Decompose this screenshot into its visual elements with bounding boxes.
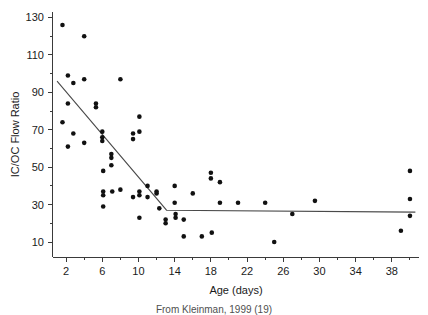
data-point — [313, 199, 318, 204]
y-axis-ticks — [48, 17, 53, 242]
data-point — [101, 204, 106, 209]
data-point — [209, 170, 214, 175]
data-point — [209, 230, 214, 235]
y-tick-label: 110 — [26, 49, 44, 61]
data-point — [109, 163, 114, 168]
data-point — [82, 34, 87, 39]
data-point — [118, 187, 123, 192]
y-tick-label: 130 — [26, 11, 44, 23]
data-point — [71, 81, 76, 86]
x-tick-label: 22 — [241, 265, 253, 277]
data-point — [100, 139, 105, 144]
data-point — [172, 200, 177, 205]
data-point — [60, 23, 65, 28]
y-tick-label: 30 — [32, 199, 44, 211]
y-tick-label: 90 — [32, 86, 44, 98]
x-tick-label: 10 — [132, 265, 144, 277]
x-axis-ticks — [66, 257, 410, 262]
x-tick-label: 14 — [169, 265, 181, 277]
data-point — [66, 144, 71, 149]
source-caption: From Kleinman, 1999 (19) — [0, 304, 428, 315]
data-point — [163, 221, 168, 226]
data-point — [408, 169, 413, 174]
x-tick-label: 18 — [205, 265, 217, 277]
y-axis-title: IC/OC Flow Ratio — [9, 92, 21, 178]
data-point — [181, 234, 186, 239]
x-tick-label: 38 — [386, 265, 398, 277]
data-point — [408, 197, 413, 202]
x-tick-label: 26 — [277, 265, 289, 277]
data-point — [137, 215, 142, 220]
data-point — [173, 215, 178, 220]
data-point — [110, 189, 115, 194]
data-point — [145, 184, 150, 189]
data-point — [66, 73, 71, 78]
data-point — [94, 105, 99, 110]
data-point — [263, 200, 268, 205]
axes-group — [53, 12, 419, 257]
y-tick-label: 50 — [32, 161, 44, 173]
data-point — [408, 214, 413, 219]
data-point — [145, 195, 150, 200]
data-point — [137, 114, 142, 119]
x-tick-label: 34 — [350, 265, 362, 277]
data-point — [82, 77, 87, 82]
data-point — [137, 129, 142, 134]
x-tick-label: 6 — [99, 265, 105, 277]
data-point — [109, 156, 114, 161]
data-point — [71, 131, 76, 136]
data-point — [101, 193, 106, 198]
data-point — [190, 191, 195, 196]
data-point — [131, 131, 136, 136]
data-point — [118, 77, 123, 82]
data-point — [290, 212, 295, 217]
data-point — [200, 234, 205, 239]
data-point — [101, 169, 106, 174]
data-point — [272, 240, 277, 245]
data-point — [157, 206, 162, 211]
y-tick-label: 70 — [32, 124, 44, 136]
data-point — [181, 217, 186, 222]
data-point — [131, 195, 136, 200]
data-point — [131, 137, 136, 142]
data-point — [82, 141, 87, 146]
data-point — [218, 180, 223, 185]
x-axis-tick-labels: 261014182226303438 — [63, 265, 398, 277]
data-point — [218, 200, 223, 205]
data-point — [100, 129, 105, 134]
x-tick-label: 2 — [63, 265, 69, 277]
data-point — [60, 120, 65, 125]
y-axis-tick-labels: 1030507090110130 — [26, 11, 44, 248]
y-tick-label: 10 — [32, 236, 44, 248]
data-point — [172, 184, 177, 189]
data-point — [209, 176, 214, 181]
x-tick-label: 30 — [313, 265, 325, 277]
data-point — [399, 229, 404, 234]
data-point — [137, 193, 142, 198]
data-point — [154, 191, 159, 196]
x-axis-title: Age (days) — [209, 284, 262, 296]
data-point — [66, 101, 71, 106]
data-point — [236, 200, 241, 205]
